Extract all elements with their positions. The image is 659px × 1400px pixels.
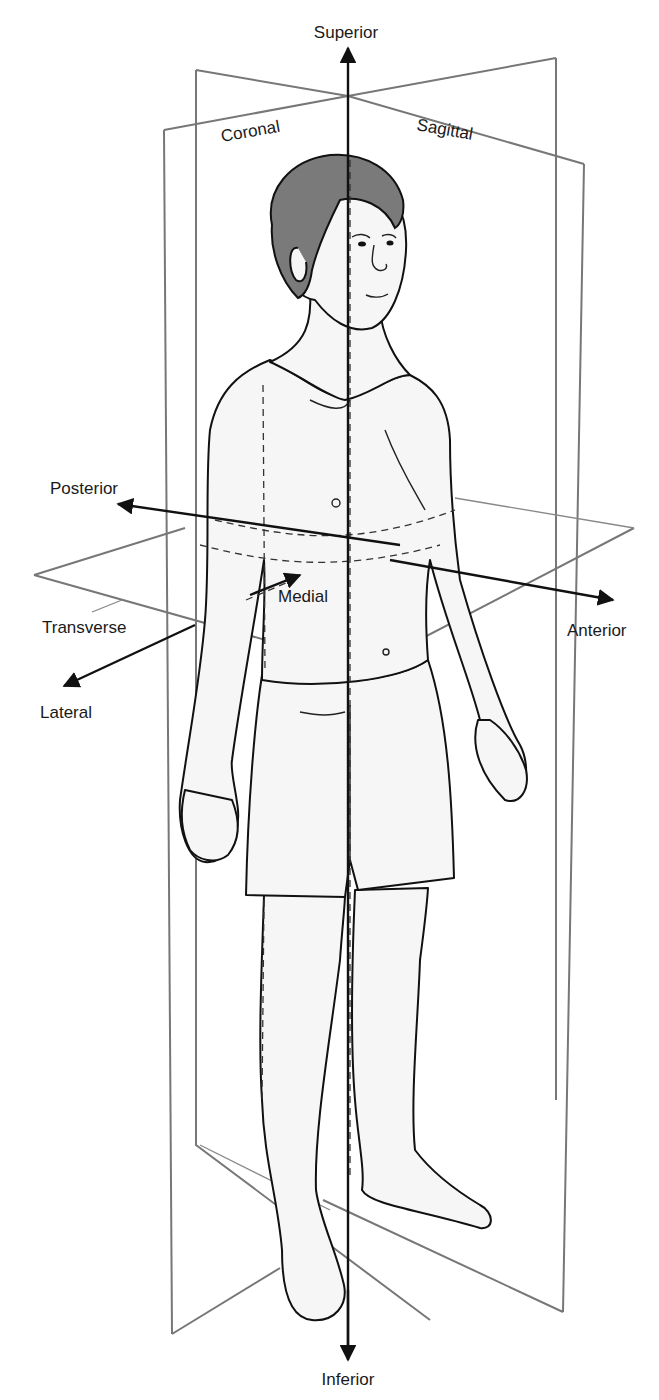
label-lateral: Lateral	[40, 703, 92, 722]
label-transverse: Transverse	[42, 618, 126, 637]
anatomy-diagram: Superior Inferior Posterior Anterior Med…	[0, 0, 659, 1400]
label-inferior: Inferior	[322, 1370, 375, 1389]
human-figure	[180, 155, 527, 1320]
label-coronal: Coronal	[219, 117, 281, 146]
label-posterior: Posterior	[50, 479, 118, 498]
label-sagittal: Sagittal	[415, 115, 474, 144]
label-medial: Medial	[278, 587, 328, 606]
label-superior: Superior	[314, 23, 379, 42]
diagram-svg: Superior Inferior Posterior Anterior Med…	[0, 0, 659, 1400]
label-anterior: Anterior	[567, 621, 627, 640]
